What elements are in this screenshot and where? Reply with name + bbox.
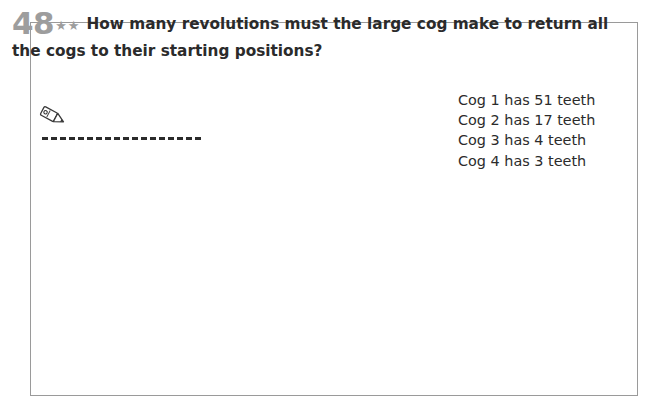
- page-border-frame: [30, 22, 638, 396]
- cog-facts-list: Cog 1 has 51 teeth Cog 2 has 17 teeth Co…: [458, 90, 638, 171]
- pencil-icon: [38, 104, 68, 130]
- list-item: Cog 4 has 3 teeth: [458, 151, 638, 171]
- question-text-line-2: the cogs to their starting positions?: [12, 42, 592, 60]
- question-first-line: 48★★How many revolutions must the large …: [12, 8, 592, 39]
- list-item: Cog 1 has 51 teeth: [458, 90, 638, 110]
- answer-dashed-line[interactable]: [42, 137, 201, 140]
- question-text-line-1: How many revolutions must the large cog …: [86, 15, 608, 33]
- question-header: 48★★How many revolutions must the large …: [12, 8, 592, 60]
- worksheet-page: 48★★How many revolutions must the large …: [0, 0, 668, 417]
- list-item: Cog 2 has 17 teeth: [458, 110, 638, 130]
- question-number: 48: [12, 5, 54, 41]
- list-item: Cog 3 has 4 teeth: [458, 130, 638, 150]
- difficulty-stars: ★★: [55, 18, 80, 33]
